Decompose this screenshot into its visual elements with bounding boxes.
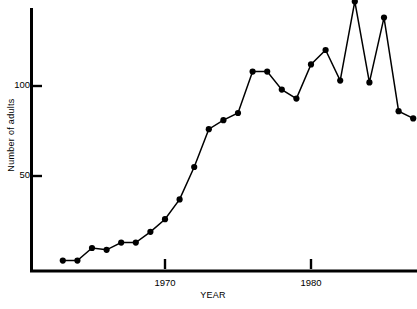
data-point <box>410 115 416 121</box>
axis-lines <box>30 8 417 272</box>
data-point <box>177 196 183 202</box>
y-tick-label-100: 100 <box>0 79 30 90</box>
data-point <box>74 258 80 264</box>
x-tick-label-1980: 1980 <box>289 277 333 288</box>
data-line <box>63 1 413 260</box>
line-chart-canvas <box>0 0 417 309</box>
data-point <box>293 96 299 102</box>
data-point <box>308 61 314 67</box>
data-point <box>352 0 358 4</box>
y-axis-ticks <box>33 86 42 176</box>
data-point <box>250 69 256 75</box>
data-point <box>191 164 197 170</box>
data-point <box>323 47 329 53</box>
data-point <box>366 79 372 85</box>
x-tick-label-1970: 1970 <box>143 277 187 288</box>
data-point <box>147 229 153 235</box>
data-point <box>381 15 387 21</box>
data-point <box>235 110 241 116</box>
data-point-markers <box>60 0 417 264</box>
data-point <box>89 245 95 251</box>
x-axis-label: YEAR <box>168 290 258 300</box>
data-point <box>337 78 343 84</box>
x-axis-ticks <box>165 259 311 269</box>
data-point <box>279 87 285 93</box>
data-point <box>133 240 139 246</box>
data-point <box>206 126 212 132</box>
data-point <box>220 117 226 123</box>
data-point <box>264 69 270 75</box>
chart-figure: Number of adults YEAR 100 50 1970 1980 <box>0 0 417 309</box>
y-tick-label-50: 50 <box>0 169 30 180</box>
data-point <box>104 247 110 253</box>
data-point <box>60 258 66 264</box>
data-point <box>118 240 124 246</box>
data-point <box>396 108 402 114</box>
data-point <box>162 216 168 222</box>
